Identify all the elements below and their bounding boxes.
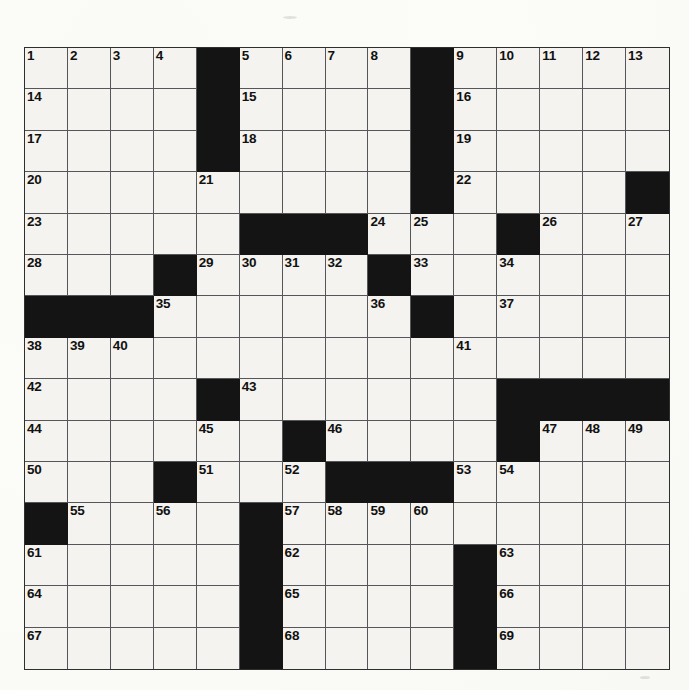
crossword-square[interactable]: 11 xyxy=(540,48,583,89)
crossword-square[interactable] xyxy=(68,586,111,627)
crossword-square[interactable] xyxy=(368,338,411,379)
crossword-square[interactable] xyxy=(368,628,411,669)
crossword-square[interactable] xyxy=(454,421,497,462)
crossword-square[interactable] xyxy=(368,89,411,130)
crossword-square[interactable]: 26 xyxy=(540,214,583,255)
crossword-square[interactable]: 23 xyxy=(25,214,68,255)
crossword-square[interactable] xyxy=(154,338,197,379)
crossword-square[interactable]: 8 xyxy=(368,48,411,89)
crossword-square[interactable]: 9 xyxy=(454,48,497,89)
crossword-square[interactable] xyxy=(540,503,583,544)
crossword-square[interactable]: 16 xyxy=(454,89,497,130)
crossword-square[interactable] xyxy=(68,172,111,213)
crossword-square[interactable] xyxy=(68,628,111,669)
crossword-square[interactable]: 66 xyxy=(497,586,540,627)
crossword-square[interactable] xyxy=(540,545,583,586)
crossword-square[interactable]: 59 xyxy=(368,503,411,544)
crossword-square[interactable]: 32 xyxy=(326,255,369,296)
crossword-square[interactable] xyxy=(240,296,283,337)
crossword-square[interactable] xyxy=(326,545,369,586)
crossword-square[interactable] xyxy=(454,255,497,296)
crossword-square[interactable] xyxy=(626,296,669,337)
crossword-square[interactable]: 41 xyxy=(454,338,497,379)
crossword-square[interactable]: 63 xyxy=(497,545,540,586)
crossword-square[interactable] xyxy=(326,628,369,669)
crossword-square[interactable] xyxy=(197,545,240,586)
crossword-square[interactable]: 6 xyxy=(283,48,326,89)
crossword-square[interactable] xyxy=(154,586,197,627)
crossword-square[interactable]: 22 xyxy=(454,172,497,213)
crossword-square[interactable]: 40 xyxy=(111,338,154,379)
crossword-square[interactable] xyxy=(626,462,669,503)
crossword-square[interactable] xyxy=(197,628,240,669)
crossword-square[interactable]: 15 xyxy=(240,89,283,130)
crossword-square[interactable] xyxy=(583,296,626,337)
crossword-square[interactable]: 24 xyxy=(368,214,411,255)
crossword-square[interactable]: 10 xyxy=(497,48,540,89)
crossword-square[interactable] xyxy=(326,379,369,420)
crossword-square[interactable] xyxy=(197,214,240,255)
crossword-square[interactable] xyxy=(626,586,669,627)
crossword-square[interactable]: 18 xyxy=(240,131,283,172)
crossword-square[interactable]: 64 xyxy=(25,586,68,627)
crossword-square[interactable] xyxy=(626,131,669,172)
crossword-square[interactable] xyxy=(111,628,154,669)
crossword-square[interactable] xyxy=(197,296,240,337)
crossword-square[interactable] xyxy=(583,545,626,586)
crossword-square[interactable]: 5 xyxy=(240,48,283,89)
crossword-square[interactable] xyxy=(326,131,369,172)
crossword-square[interactable] xyxy=(583,628,626,669)
crossword-square[interactable]: 68 xyxy=(283,628,326,669)
crossword-square[interactable] xyxy=(283,172,326,213)
crossword-square[interactable]: 51 xyxy=(197,462,240,503)
crossword-square[interactable] xyxy=(154,172,197,213)
crossword-square[interactable] xyxy=(154,628,197,669)
crossword-square[interactable]: 67 xyxy=(25,628,68,669)
crossword-square[interactable] xyxy=(197,503,240,544)
crossword-square[interactable] xyxy=(111,172,154,213)
crossword-square[interactable] xyxy=(240,421,283,462)
crossword-square[interactable] xyxy=(68,545,111,586)
crossword-square[interactable]: 25 xyxy=(411,214,454,255)
crossword-square[interactable] xyxy=(154,89,197,130)
crossword-square[interactable] xyxy=(111,214,154,255)
crossword-square[interactable] xyxy=(111,462,154,503)
crossword-square[interactable]: 29 xyxy=(197,255,240,296)
crossword-square[interactable] xyxy=(368,545,411,586)
crossword-square[interactable] xyxy=(497,503,540,544)
crossword-square[interactable] xyxy=(454,296,497,337)
crossword-square[interactable] xyxy=(326,172,369,213)
crossword-square[interactable] xyxy=(111,89,154,130)
crossword-square[interactable] xyxy=(583,214,626,255)
crossword-square[interactable]: 44 xyxy=(25,421,68,462)
crossword-square[interactable]: 13 xyxy=(626,48,669,89)
crossword-square[interactable]: 61 xyxy=(25,545,68,586)
crossword-square[interactable] xyxy=(326,586,369,627)
crossword-square[interactable] xyxy=(497,338,540,379)
crossword-square[interactable] xyxy=(540,296,583,337)
crossword-square[interactable]: 21 xyxy=(197,172,240,213)
crossword-square[interactable]: 14 xyxy=(25,89,68,130)
crossword-square[interactable]: 27 xyxy=(626,214,669,255)
crossword-square[interactable] xyxy=(411,421,454,462)
crossword-square[interactable] xyxy=(540,338,583,379)
crossword-square[interactable]: 56 xyxy=(154,503,197,544)
crossword-grid[interactable]: 1234567891011121314151617181920212223242… xyxy=(24,47,670,670)
crossword-square[interactable] xyxy=(368,379,411,420)
crossword-square[interactable]: 38 xyxy=(25,338,68,379)
crossword-square[interactable] xyxy=(68,255,111,296)
crossword-square[interactable] xyxy=(154,131,197,172)
crossword-square[interactable] xyxy=(497,172,540,213)
crossword-square[interactable] xyxy=(68,379,111,420)
crossword-square[interactable]: 17 xyxy=(25,131,68,172)
crossword-square[interactable] xyxy=(411,628,454,669)
crossword-square[interactable]: 45 xyxy=(197,421,240,462)
crossword-square[interactable] xyxy=(583,462,626,503)
crossword-square[interactable]: 65 xyxy=(283,586,326,627)
crossword-square[interactable]: 62 xyxy=(283,545,326,586)
crossword-square[interactable] xyxy=(283,338,326,379)
crossword-square[interactable]: 34 xyxy=(497,255,540,296)
crossword-square[interactable]: 37 xyxy=(497,296,540,337)
crossword-square[interactable] xyxy=(68,421,111,462)
crossword-square[interactable]: 42 xyxy=(25,379,68,420)
